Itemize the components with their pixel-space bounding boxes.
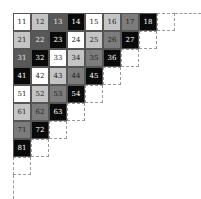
cell-label: 35 bbox=[90, 55, 99, 62]
grid-cell-21: 21 bbox=[13, 31, 31, 49]
empty-dashed-cell bbox=[103, 67, 121, 85]
cell-label: 81 bbox=[18, 145, 27, 152]
empty-dashed-cell bbox=[49, 121, 67, 139]
grid-cell-52: 52 bbox=[31, 85, 49, 103]
cell-label: 62 bbox=[36, 109, 45, 116]
grid-cell-26: 26 bbox=[103, 31, 121, 49]
cell-label: 53 bbox=[54, 91, 63, 98]
grid-cell-27: 27 bbox=[121, 31, 139, 49]
cell-label: 33 bbox=[54, 55, 63, 62]
cell-label: 25 bbox=[90, 37, 99, 44]
grid-cell-14: 14 bbox=[67, 13, 85, 31]
cell-label: 51 bbox=[18, 91, 27, 98]
grid-cell-31: 31 bbox=[13, 49, 31, 67]
empty-dashed-cell bbox=[157, 13, 175, 31]
cell-label: 32 bbox=[36, 55, 45, 62]
cell-label: 36 bbox=[108, 55, 117, 62]
cell-label: 43 bbox=[54, 73, 63, 80]
empty-dashed-cell bbox=[13, 157, 31, 175]
cell-label: 21 bbox=[18, 37, 27, 44]
cell-label: 52 bbox=[36, 91, 45, 98]
empty-dashed-cell bbox=[121, 49, 139, 67]
cell-label: 15 bbox=[90, 19, 99, 26]
grid-cell-16: 16 bbox=[103, 13, 121, 31]
cell-label: 72 bbox=[36, 127, 45, 134]
grid-cell-43: 43 bbox=[49, 67, 67, 85]
grid-cell-36: 36 bbox=[103, 49, 121, 67]
grid-cell-17: 17 bbox=[121, 13, 139, 31]
triangular-grid-diagram: 1112131415161718212223242526273132333435… bbox=[0, 0, 201, 199]
grid-cell-54: 54 bbox=[67, 85, 85, 103]
grid-cell-35: 35 bbox=[85, 49, 103, 67]
grid-cell-44: 44 bbox=[67, 67, 85, 85]
grid-cell-81: 81 bbox=[13, 139, 31, 157]
cell-label: 17 bbox=[126, 19, 135, 26]
grid-cell-71: 71 bbox=[13, 121, 31, 139]
cell-label: 26 bbox=[108, 37, 117, 44]
dashed-extension-left bbox=[13, 175, 14, 199]
cell-label: 54 bbox=[72, 91, 81, 98]
cell-label: 12 bbox=[36, 19, 45, 26]
grid-cell-24: 24 bbox=[67, 31, 85, 49]
grid-cell-45: 45 bbox=[85, 67, 103, 85]
cell-label: 14 bbox=[72, 19, 81, 26]
grid-cell-22: 22 bbox=[31, 31, 49, 49]
cell-label: 71 bbox=[18, 127, 27, 134]
cell-label: 13 bbox=[54, 19, 63, 26]
grid-cell-41: 41 bbox=[13, 67, 31, 85]
cell-label: 22 bbox=[36, 37, 45, 44]
cell-label: 34 bbox=[72, 55, 81, 62]
grid-cell-72: 72 bbox=[31, 121, 49, 139]
empty-dashed-cell bbox=[31, 139, 49, 157]
cell-label: 45 bbox=[90, 73, 99, 80]
cell-label: 27 bbox=[126, 37, 135, 44]
cell-label: 16 bbox=[108, 19, 117, 26]
grid-cell-63: 63 bbox=[49, 103, 67, 121]
grid-cell-51: 51 bbox=[13, 85, 31, 103]
grid-cell-12: 12 bbox=[31, 13, 49, 31]
cell-label: 61 bbox=[18, 109, 27, 116]
grid-cell-42: 42 bbox=[31, 67, 49, 85]
empty-dashed-cell bbox=[85, 85, 103, 103]
cell-label: 23 bbox=[54, 37, 63, 44]
grid-cell-32: 32 bbox=[31, 49, 49, 67]
cell-label: 31 bbox=[18, 55, 27, 62]
grid-cell-13: 13 bbox=[49, 13, 67, 31]
grid-cell-53: 53 bbox=[49, 85, 67, 103]
grid-cell-62: 62 bbox=[31, 103, 49, 121]
cell-label: 41 bbox=[18, 73, 27, 80]
empty-dashed-cell bbox=[67, 103, 85, 121]
dashed-extension-top bbox=[175, 13, 201, 14]
empty-dashed-cell bbox=[139, 31, 157, 49]
grid-cell-18: 18 bbox=[139, 13, 157, 31]
grid-cell-23: 23 bbox=[49, 31, 67, 49]
cell-label: 11 bbox=[18, 19, 27, 26]
cell-label: 44 bbox=[72, 73, 81, 80]
grid-cell-33: 33 bbox=[49, 49, 67, 67]
cell-label: 24 bbox=[72, 37, 81, 44]
cell-label: 63 bbox=[54, 109, 63, 116]
grid-cell-34: 34 bbox=[67, 49, 85, 67]
grid-cell-25: 25 bbox=[85, 31, 103, 49]
cell-label: 18 bbox=[144, 19, 153, 26]
grid-cell-15: 15 bbox=[85, 13, 103, 31]
grid-cell-11: 11 bbox=[13, 13, 31, 31]
cell-label: 42 bbox=[36, 73, 45, 80]
grid-cell-61: 61 bbox=[13, 103, 31, 121]
